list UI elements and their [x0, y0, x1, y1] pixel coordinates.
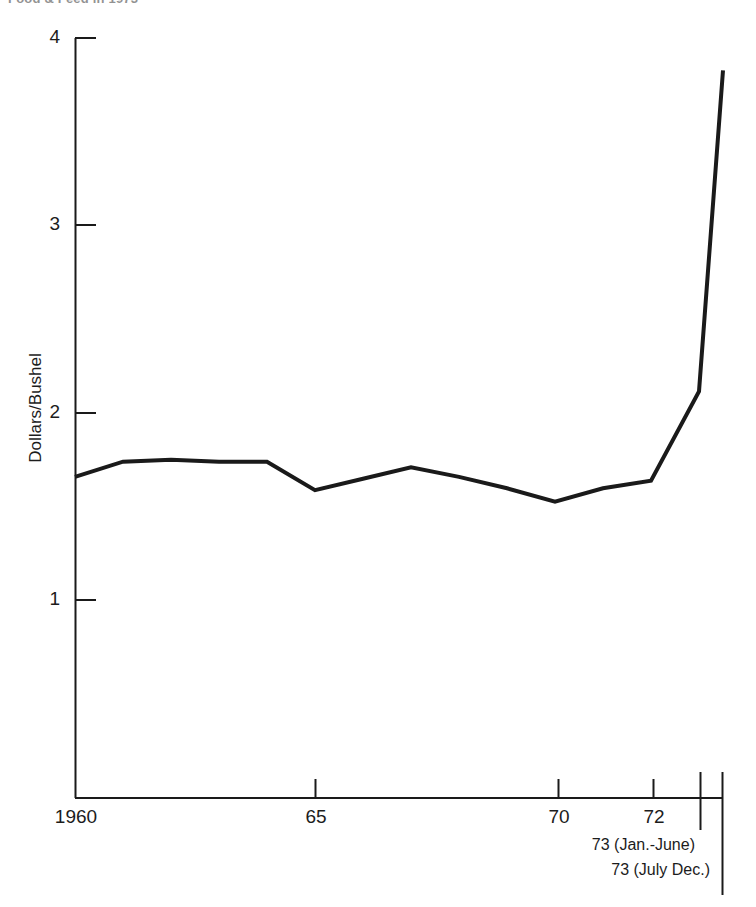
x-tick-label-65: 65 [294, 806, 338, 828]
x-tick-label-72: 72 [632, 806, 676, 828]
price-line-series [75, 70, 723, 501]
annotation-jan-june: 73 (Jan.-June) [420, 836, 695, 854]
y-tick-label-1: 1 [26, 588, 60, 610]
x-tick-label-70: 70 [537, 806, 581, 828]
x-tick-label-1960: 1960 [35, 806, 117, 828]
y-tick-label-3: 3 [26, 213, 60, 235]
annotation-july-dec: 73 (July Dec.) [420, 861, 710, 879]
chart-figure: Food & Feed in 1973 4 3 2 1 1960 65 70 7… [0, 0, 756, 907]
y-tick-label-4: 4 [26, 26, 60, 48]
y-axis-title: Dollars/Bushel [26, 328, 46, 488]
plot-area [0, 0, 756, 907]
